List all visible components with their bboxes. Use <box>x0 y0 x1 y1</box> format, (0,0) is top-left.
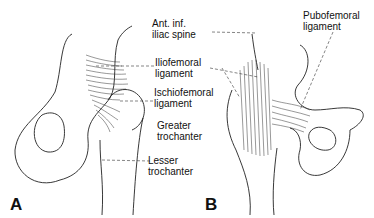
iliac-spine-b <box>252 34 258 70</box>
label-ischiofemoral-ligament: Ischiofemoral ligament <box>154 87 213 109</box>
ligament-fibers-b <box>240 60 310 156</box>
label-iliofemoral-ligament: Iliofemoral ligament <box>155 57 201 79</box>
femur-a-right <box>133 118 143 215</box>
leader-lines <box>96 32 333 161</box>
femur-b-left <box>227 90 250 215</box>
obturator-foramen-a <box>34 113 64 152</box>
femoral-head-a <box>108 90 144 131</box>
panel-label-a: A <box>10 195 22 215</box>
label-lesser-trochanter: Lesser trochanter <box>148 155 193 177</box>
femur-a-left <box>100 140 103 215</box>
pelvis-outline-b <box>290 45 363 175</box>
obturator-foramen-b <box>309 127 336 150</box>
label-greater-trochanter: Greater trochanter <box>157 120 202 142</box>
femur-b-right <box>273 148 277 215</box>
label-ant-inf-iliac-spine: Ant. inf. iliac spine <box>152 18 196 40</box>
label-pubofemoral-ligament: Pubofemoral ligament <box>303 10 360 32</box>
panel-label-b: B <box>205 195 217 215</box>
pelvis-outline-a <box>15 26 132 183</box>
